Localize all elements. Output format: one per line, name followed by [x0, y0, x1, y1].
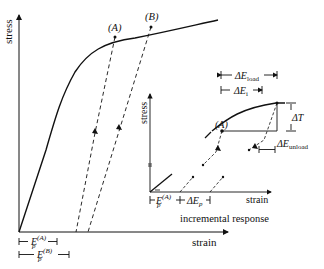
inset-point-a-label: (A): [215, 119, 228, 131]
main-y-axis-label: stress: [2, 20, 14, 44]
inset-caption: incremental response: [180, 213, 269, 224]
stress-strain-diagram: stress strain (A) (B) E(A)p: [0, 0, 324, 269]
delta-e-unload-dimension: ΔEunload: [259, 138, 309, 153]
svg-text:ΔT: ΔT: [291, 112, 305, 123]
inset-x-axis-label: strain: [246, 194, 268, 205]
point-b-label: (B): [145, 11, 159, 23]
svg-text:ΔEload: ΔEload: [234, 70, 260, 83]
svg-text:ΔEp: ΔEp: [186, 195, 203, 208]
main-plot: stress strain (A) (B) E(A)p: [2, 11, 228, 263]
ep-b-dimension: E(B)p: [19, 247, 69, 263]
svg-text:E(A)p: E(A)p: [155, 193, 172, 209]
point-a-label: (A): [108, 22, 122, 34]
inset-y-axis-label: stress: [138, 102, 149, 124]
svg-text:E(B)p: E(B)p: [36, 247, 53, 263]
delta-e-load-dimension: ΔEload: [221, 70, 277, 83]
inset-ep-dimension: E(A)p ΔEp: [150, 193, 210, 209]
main-x-axis-label: strain: [192, 236, 217, 248]
svg-text:ΔEi: ΔEi: [233, 85, 248, 98]
svg-text:ΔEunload: ΔEunload: [276, 138, 309, 151]
unload-line-a: [76, 37, 115, 232]
delta-t-dimension: ΔT: [286, 103, 305, 131]
inset-plot: stress strain incremental response (A): [138, 70, 309, 224]
delta-e-i-dimension: ΔEi: [221, 85, 262, 98]
